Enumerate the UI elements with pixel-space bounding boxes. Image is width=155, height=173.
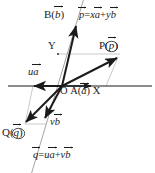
point-Y-marker	[57, 53, 59, 55]
label-u-times-a: ua	[28, 67, 39, 78]
vector-p-arrow	[62, 58, 117, 86]
label-point-Q-close: )	[19, 126, 23, 138]
label-v-vector-b: b	[55, 117, 60, 128]
label-origin-A-X-group: O A(a) X	[60, 86, 100, 97]
label-point-A-vector: a	[81, 86, 86, 97]
equation-q: q=ua+vb	[33, 150, 71, 161]
eq-p-lhs: p	[79, 10, 84, 21]
label-point-B: B(b)	[44, 9, 64, 20]
label-origin: O	[60, 85, 68, 96]
label-axis-y: Y	[48, 41, 56, 52]
eq-q-vec-a: a	[49, 150, 54, 161]
eq-p-vec-a: a	[95, 10, 100, 21]
label-point-P-close: )	[114, 39, 118, 51]
label-point-A-open: A(	[70, 85, 81, 96]
equation-p: p=xa+yb	[79, 10, 116, 21]
vector-b-arrow	[62, 26, 76, 86]
label-point-B-vector: b	[55, 9, 61, 20]
label-point-P-open: P(	[99, 39, 109, 51]
label-point-Q: Q(q)	[2, 127, 23, 138]
label-point-Q-open: Q(	[2, 126, 14, 138]
label-point-B-close: )	[61, 8, 65, 20]
label-point-P-vector: p	[109, 40, 115, 51]
label-u-vector-a: a	[33, 67, 38, 78]
label-point-B-open: B(	[44, 8, 55, 20]
label-v-times-b: vb	[50, 117, 60, 128]
label-axis-x: X	[93, 85, 101, 96]
label-point-P: P(p)	[99, 40, 118, 51]
eq-q-lhs: q	[33, 150, 38, 161]
eq-p-vec-b: b	[111, 10, 116, 21]
label-point-A-close: )	[87, 85, 91, 96]
eq-q-vec-b: b	[65, 150, 70, 161]
label-point-Q-vector: q	[14, 127, 20, 138]
